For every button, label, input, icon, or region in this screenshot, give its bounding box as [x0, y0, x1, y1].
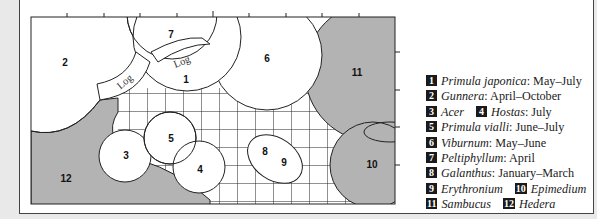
legend-season: : May–July: [527, 74, 582, 88]
legend-row: 2Gunnera: April–October: [426, 89, 586, 104]
bed-11: [305, 2, 445, 142]
label-9: 9: [281, 157, 287, 168]
legend-plant: Hedera: [519, 197, 556, 211]
legend: 1Primula japonica: May–July 2Gunnera: Ap…: [426, 74, 586, 213]
label-8: 8: [262, 146, 268, 157]
legend-badge: 9: [426, 183, 437, 194]
label-7: 7: [168, 29, 174, 40]
label-3: 3: [123, 150, 129, 161]
label-5: 5: [168, 133, 174, 144]
legend-row: 11Sambucus12Hedera: [426, 197, 586, 212]
legend-badge: 2: [426, 90, 437, 101]
legend-plant: Primula japonica: [441, 74, 527, 88]
legend-season: : June–July: [509, 120, 564, 134]
legend-row: 5Primula vialli: June–July: [426, 120, 586, 135]
legend-row: 8Galanthus: January–March: [426, 166, 586, 181]
legend-season: : April–October: [484, 89, 561, 103]
legend-plant: Sambucus: [441, 197, 490, 211]
legend-row: 3Acer4Hostas: July: [426, 105, 586, 120]
legend-season: : January–March: [492, 166, 574, 180]
legend-badge: 6: [426, 137, 437, 148]
legend-plant: Hostas: [491, 105, 525, 119]
legend-badge: 5: [426, 121, 437, 132]
label-10: 10: [366, 159, 378, 170]
legend-badge: 7: [426, 152, 437, 163]
legend-row: 6Viburnum: May–June: [426, 136, 586, 151]
label-6: 6: [264, 53, 270, 64]
legend-badge: 8: [426, 167, 437, 178]
label-2: 2: [62, 57, 68, 68]
legend-season: : July: [525, 105, 552, 119]
label-11: 11: [352, 67, 363, 78]
legend-badge: 3: [426, 106, 437, 117]
legend-plant: Peltiphyllum: [441, 151, 503, 165]
legend-plant: Erythronium: [441, 182, 503, 196]
legend-badge: 4: [476, 106, 487, 117]
bed-area: [31, 0, 445, 208]
legend-badge: 11: [426, 198, 437, 209]
legend-row: 1Primula japonica: May–July: [426, 74, 586, 89]
label-12: 12: [60, 173, 72, 184]
legend-row: 9Erythronium10Epimedium: [426, 182, 586, 197]
legend-season: : April: [503, 151, 535, 165]
legend-plant: Primula vialli: [441, 120, 509, 134]
legend-row: 7Peltiphyllum: April: [426, 151, 586, 166]
legend-badge: 12: [503, 198, 515, 209]
legend-badge: 1: [426, 75, 437, 86]
legend-plant: Acer: [441, 105, 464, 119]
legend-plant: Epimedium: [531, 182, 587, 196]
legend-plant: Viburnum: [441, 136, 489, 150]
legend-plant: Gunnera: [441, 89, 484, 103]
legend-season: : May–June: [489, 136, 546, 150]
legend-badge: 10: [515, 183, 527, 194]
label-1: 1: [183, 74, 189, 85]
label-4: 4: [197, 164, 203, 175]
legend-plant: Galanthus: [441, 166, 492, 180]
